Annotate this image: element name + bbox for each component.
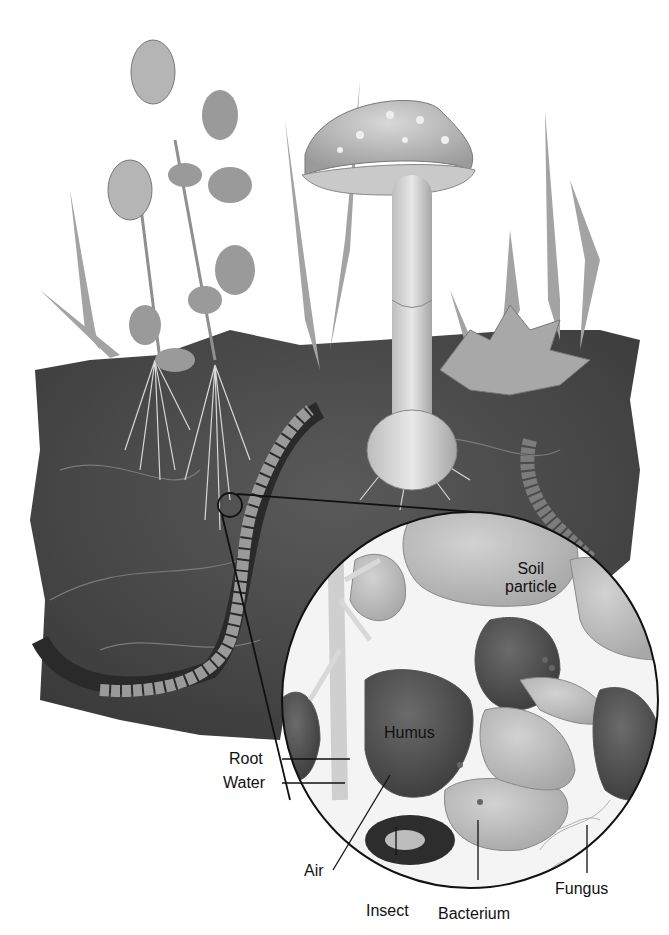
label-humus: Humus	[384, 724, 435, 742]
label-soil-particle-line2: particle	[505, 578, 557, 596]
label-fungus: Fungus	[555, 880, 608, 898]
label-soil-particle: Soil particle	[505, 560, 557, 596]
label-soil-particle-line1: Soil	[505, 560, 557, 578]
soil-diagram: Soil particle Humus Root Water Air Insec…	[0, 0, 669, 935]
clover-illustration	[108, 40, 255, 372]
label-insect: Insect	[366, 902, 409, 920]
label-root: Root	[229, 750, 263, 768]
label-water: Water	[223, 774, 265, 792]
label-air: Air	[304, 862, 324, 880]
label-bacterium: Bacterium	[438, 905, 510, 923]
